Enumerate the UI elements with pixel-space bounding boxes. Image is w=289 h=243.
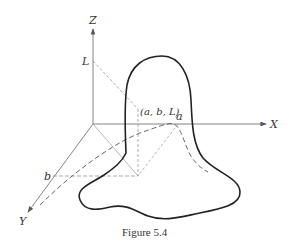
l-to-point-line — [93, 61, 138, 109]
l-label: L — [81, 55, 89, 68]
b-label: b — [44, 170, 51, 183]
surface-outline — [79, 56, 240, 219]
figure-diagram: Z X Y L b a (a, b, L) Figure 5.4 — [0, 0, 289, 243]
figure-caption: Figure 5.4 — [122, 226, 168, 238]
cross-section-curve — [40, 123, 208, 205]
origin-to-base-line — [93, 124, 138, 176]
x-axis-label: X — [269, 118, 279, 131]
y-axis-label: Y — [19, 215, 28, 228]
y-axis — [28, 124, 93, 212]
point-label: (a, b, L) — [140, 106, 180, 117]
z-axis-label: Z — [88, 14, 97, 27]
a-to-base-line — [138, 124, 178, 176]
